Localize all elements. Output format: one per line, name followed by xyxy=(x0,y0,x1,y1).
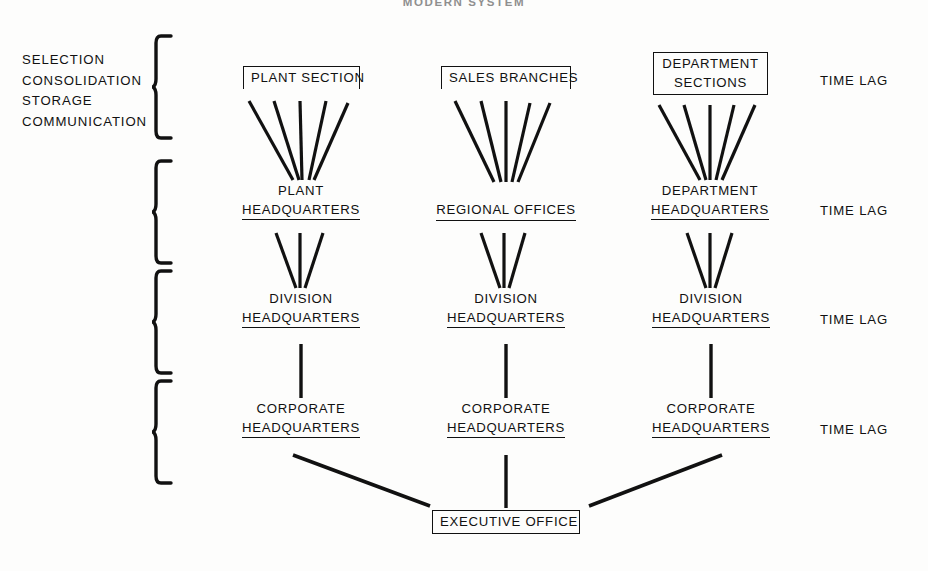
node-department-sections-box: DEPARTMENT SECTIONS xyxy=(653,52,768,95)
process-label-consolidation: CONSOLIDATION xyxy=(22,71,147,92)
node-division-headquarters-sales-line2: HEADQUARTERS xyxy=(447,309,565,329)
process-label-storage: STORAGE xyxy=(22,91,147,112)
node-executive-office[interactable]: EXECUTIVE OFFICE xyxy=(432,510,580,534)
node-division-headquarters-plant-line2: HEADQUARTERS xyxy=(242,309,360,329)
diagram-canvas: MODERN SYSTEM xyxy=(0,0,928,571)
node-corporate-headquarters-plant-line1: CORPORATE xyxy=(230,400,372,419)
node-corporate-headquarters-sales[interactable]: CORPORATE HEADQUARTERS xyxy=(435,400,577,438)
node-division-headquarters-department-line1: DIVISION xyxy=(640,290,782,309)
node-department-headquarters[interactable]: DEPARTMENT HEADQUARTERS xyxy=(639,182,781,220)
node-corporate-headquarters-sales-line1: CORPORATE xyxy=(435,400,577,419)
node-corporate-headquarters-department[interactable]: CORPORATE HEADQUARTERS xyxy=(640,400,782,438)
node-department-sections[interactable]: DEPARTMENT SECTIONS xyxy=(653,52,768,95)
brace-tier-4 xyxy=(152,378,178,486)
process-labels: SELECTION CONSOLIDATION STORAGE COMMUNIC… xyxy=(22,50,147,132)
node-department-sections-label-line2: SECTIONS xyxy=(661,74,760,93)
brace-tier-1 xyxy=(152,33,178,141)
node-regional-offices-label: REGIONAL OFFICES xyxy=(436,201,576,221)
node-regional-offices[interactable]: REGIONAL OFFICES xyxy=(432,201,580,221)
node-executive-office-label: EXECUTIVE OFFICE xyxy=(440,514,578,529)
node-sales-branches[interactable]: SALES BRANCHES xyxy=(441,66,571,89)
process-label-communication: COMMUNICATION xyxy=(22,112,147,133)
node-plant-headquarters[interactable]: PLANT HEADQUARTERS xyxy=(230,182,372,220)
node-department-headquarters-label-line2: HEADQUARTERS xyxy=(651,201,769,221)
time-lag-tier-3: TIME LAG xyxy=(820,312,888,327)
time-lag-tier-1: TIME LAG xyxy=(820,73,888,88)
node-division-headquarters-department[interactable]: DIVISION HEADQUARTERS xyxy=(640,290,782,328)
node-plant-section[interactable]: PLANT SECTION xyxy=(243,66,360,89)
brace-tier-3 xyxy=(152,268,178,376)
node-sales-branches-label: SALES BRANCHES xyxy=(449,70,578,85)
node-division-headquarters-department-line2: HEADQUARTERS xyxy=(652,309,770,329)
node-plant-section-box: PLANT SECTION xyxy=(243,66,360,89)
node-division-headquarters-plant-line1: DIVISION xyxy=(230,290,372,309)
node-department-sections-label-line1: DEPARTMENT xyxy=(661,55,760,74)
node-corporate-headquarters-department-line2: HEADQUARTERS xyxy=(652,419,770,439)
node-plant-section-label: PLANT SECTION xyxy=(251,70,365,85)
node-division-headquarters-sales[interactable]: DIVISION HEADQUARTERS xyxy=(435,290,577,328)
node-corporate-headquarters-sales-line2: HEADQUARTERS xyxy=(447,419,565,439)
diagram-title: MODERN SYSTEM xyxy=(0,0,928,8)
time-lag-tier-4: TIME LAG xyxy=(820,422,888,437)
time-lag-tier-2: TIME LAG xyxy=(820,203,888,218)
node-corporate-headquarters-plant[interactable]: CORPORATE HEADQUARTERS xyxy=(230,400,372,438)
node-corporate-headquarters-department-line1: CORPORATE xyxy=(640,400,782,419)
brace-tier-2 xyxy=(152,158,178,266)
node-department-headquarters-label-line1: DEPARTMENT xyxy=(639,182,781,201)
node-plant-headquarters-label-line1: PLANT xyxy=(230,182,372,201)
node-corporate-headquarters-plant-line2: HEADQUARTERS xyxy=(242,419,360,439)
node-plant-headquarters-label-line2: HEADQUARTERS xyxy=(242,201,360,221)
node-sales-branches-box: SALES BRANCHES xyxy=(441,66,571,89)
node-division-headquarters-sales-line1: DIVISION xyxy=(435,290,577,309)
node-division-headquarters-plant[interactable]: DIVISION HEADQUARTERS xyxy=(230,290,372,328)
process-label-selection: SELECTION xyxy=(22,50,147,71)
node-executive-office-box: EXECUTIVE OFFICE xyxy=(432,510,580,534)
